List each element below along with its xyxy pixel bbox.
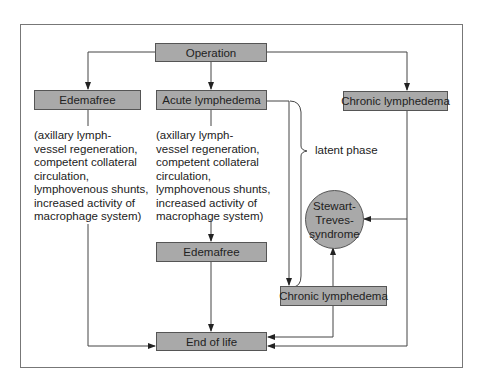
latent-phase-label: latent phase <box>315 144 378 156</box>
node-chronic-lymphedema-top: Chronic lymphedema <box>343 91 448 111</box>
node-edemafree-mid: Edemafree <box>156 242 267 262</box>
node-end-of-life: End of life <box>156 332 267 351</box>
node-edemafree-top: Edemafree <box>34 90 141 110</box>
note-middle: (axillary lymph- vessel regeneration, co… <box>156 129 270 224</box>
node-chronic-lymphedema-lower: Chronic lymphedema <box>280 286 387 306</box>
node-stewart-treves: Stewart- Treves- syndrome <box>305 190 364 249</box>
node-operation: Operation <box>155 43 267 62</box>
node-acute-lymphedema: Acute lymphedema <box>156 90 267 110</box>
note-left: (axillary lymph- vessel regeneration, co… <box>34 129 148 224</box>
